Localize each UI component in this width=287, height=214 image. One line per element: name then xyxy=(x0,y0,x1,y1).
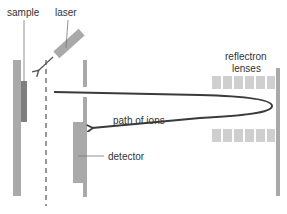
middle-plate-bottom xyxy=(83,97,87,197)
sample-plate xyxy=(13,60,21,196)
detector xyxy=(73,122,83,183)
reflectron-label-line2: lenses xyxy=(232,63,261,74)
reflectron-lenses-bottom xyxy=(212,129,275,142)
path-of-ions-label: path of ions xyxy=(113,115,165,126)
laser xyxy=(53,29,84,58)
detector-label: detector xyxy=(108,151,145,162)
mass-spectrometer-diagram: sample laser detector reflectron lenses … xyxy=(0,0,287,214)
middle-plate-top xyxy=(83,60,87,87)
sample xyxy=(21,81,27,122)
reflectron-lenses-top xyxy=(212,76,275,89)
laser-label: laser xyxy=(55,7,77,18)
sample-label: sample xyxy=(7,7,40,18)
reflectron-back-plate xyxy=(276,68,280,196)
reflectron-label-line1: reflectron xyxy=(225,51,267,62)
